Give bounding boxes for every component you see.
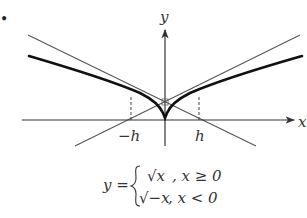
diagram-canvas: • y x −h h y = √x , x ≥ 0 √−x , x < 0 bbox=[0, 0, 307, 218]
formula-case1-cond: , x ≥ 0 bbox=[172, 167, 222, 185]
y-axis-label: y bbox=[159, 8, 169, 26]
tick-label-neg-h: −h bbox=[118, 127, 140, 145]
x-axis-label: x bbox=[298, 113, 307, 131]
tangent-line-right bbox=[75, 35, 300, 146]
tangent-line-left bbox=[28, 35, 256, 146]
formula-case2-expr: √−x bbox=[139, 189, 170, 207]
formula-lhs: y = bbox=[102, 176, 129, 194]
piecewise-formula: y = √x , x ≥ 0 √−x , x < 0 bbox=[102, 166, 222, 207]
formula-case1-expr: √x bbox=[147, 167, 166, 185]
tick-label-pos-h: h bbox=[195, 127, 205, 145]
bullet: • bbox=[0, 11, 8, 27]
formula-case2-cond: , x < 0 bbox=[168, 189, 218, 207]
